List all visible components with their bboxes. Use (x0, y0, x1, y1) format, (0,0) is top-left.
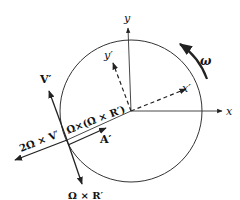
x-axis-label: x (226, 105, 233, 118)
omega-label: ω (200, 54, 212, 68)
centripetal-label: Ω×(Ω × R′) (65, 103, 127, 135)
rotating-frame-diagram: y x y′ x′ ω V′ 2Ω × V′ Ω×(Ω × R′) A′ Ω ×… (0, 0, 240, 200)
transport-vector (67, 140, 82, 184)
x-prime-axis (131, 89, 186, 111)
velocity-label: V′ (39, 73, 52, 86)
acceleration-label: A′ (99, 133, 112, 146)
transport-label: Ω × R′ (68, 190, 104, 200)
y-prime-axis-label: y′ (103, 49, 113, 62)
x-prime-axis-label: x′ (182, 82, 191, 95)
y-axis-label: y (123, 12, 131, 25)
